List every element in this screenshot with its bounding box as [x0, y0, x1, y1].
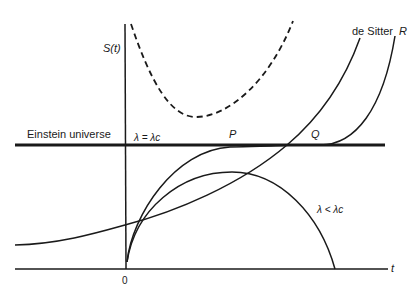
recollapse-curve	[127, 172, 335, 269]
p-asymptotic-curve	[127, 145, 290, 262]
r-label: R	[399, 25, 407, 37]
dashed-bounce-curve	[131, 21, 293, 117]
origin-label: 0	[122, 275, 128, 286]
point-p-label: P	[229, 128, 237, 140]
einstein-universe-label: Einstein universe	[27, 128, 111, 140]
cosmology-diagram: S(t) t 0 Einstein universe λ = λc P Q de…	[0, 0, 419, 293]
x-axis-label: t	[391, 262, 395, 274]
de-sitter-label: de Sitter	[352, 25, 393, 37]
y-axis-label: S(t)	[103, 42, 121, 54]
point-q-label: Q	[311, 128, 320, 140]
r-curve	[320, 36, 395, 145]
lambda-less-label: λ < λc	[316, 204, 343, 215]
lambda-equal-label: λ = λc	[133, 132, 160, 143]
